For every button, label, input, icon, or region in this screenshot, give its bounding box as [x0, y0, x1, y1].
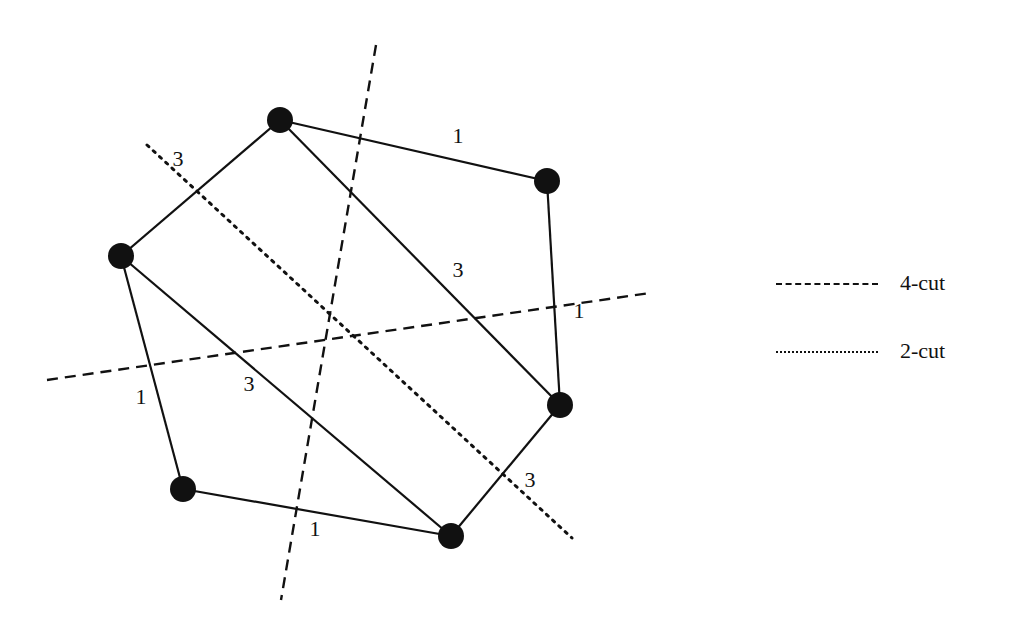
edge-weight-A-B: 1 [453, 123, 464, 148]
dashed-line-swatch [776, 283, 878, 285]
4-cut-horizontal-line [47, 293, 650, 380]
cut-lines [47, 45, 650, 600]
legend-label: 4-cut [900, 270, 945, 296]
edge-weight-B-D: 1 [574, 298, 585, 323]
edge-weight-F-D: 3 [525, 467, 536, 492]
edge-A-B [280, 120, 547, 181]
node-D [547, 392, 573, 418]
edge-A-C [121, 120, 280, 256]
legend-item-2-cut: 2-cut [776, 338, 1006, 366]
edge-weight-E-F: 1 [310, 516, 321, 541]
2-cut-diagonal-line [147, 145, 572, 538]
edge-weight-A-D: 3 [453, 257, 464, 282]
edge-weight-C-F: 3 [244, 371, 255, 396]
edge-weight-C-E: 1 [136, 384, 147, 409]
edge-C-F [121, 256, 451, 536]
dotted-line-swatch [776, 351, 878, 353]
legend-label: 2-cut [900, 338, 945, 364]
node-B [534, 168, 560, 194]
edge-A-D [280, 120, 560, 405]
legend: 4-cut 2-cut [776, 270, 1006, 406]
legend-item-4-cut: 4-cut [776, 270, 1006, 298]
4-cut-vertical-line [281, 45, 376, 600]
edge-F-D [451, 405, 560, 536]
node-E [170, 476, 196, 502]
edge-C-E [121, 256, 183, 489]
edge-weight-A-C: 3 [173, 146, 184, 171]
node-A [267, 107, 293, 133]
edge-B-D [547, 181, 560, 405]
node-C [108, 243, 134, 269]
node-F [438, 523, 464, 549]
